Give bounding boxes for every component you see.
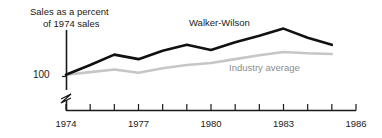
y-axis-caption-line-1: Sales as a percent — [30, 6, 109, 18]
chart-container: Sales as a percent of 1974 sales 100 197… — [0, 0, 382, 138]
series-label-walker-wilson: Walker-Wilson — [189, 17, 250, 28]
x-axis-tick-label-1977: 1977 — [128, 118, 149, 129]
y-axis-caption-line-2: of 1974 sales — [43, 18, 100, 30]
x-axis-ticks — [66, 104, 356, 111]
y-axis-tick-label-100: 100 — [33, 69, 50, 80]
x-axis-tick-label-1983: 1983 — [273, 118, 294, 129]
x-axis-tick-label-1980: 1980 — [200, 118, 221, 129]
series-label-industry-average: Industry average — [229, 62, 300, 73]
x-axis-tick-label-1974: 1974 — [55, 118, 76, 129]
x-axis-tick-label-1986: 1986 — [345, 118, 366, 129]
